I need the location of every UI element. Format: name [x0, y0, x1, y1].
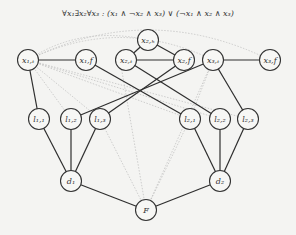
node-x2t: x₂,ₜ: [116, 50, 137, 71]
node-label: l₂,₂: [214, 115, 226, 124]
node-label: l₂,₃: [242, 115, 254, 124]
node-label: x₁,f: [79, 56, 94, 65]
node-label: F: [142, 206, 149, 215]
node-label: d₁: [67, 177, 75, 186]
edge-x2t-l22: [126, 60, 220, 119]
node-label: x₃,ₜ: [207, 56, 219, 65]
node-l23: l₂,₃: [238, 109, 259, 130]
node-label: l₁,₃: [94, 115, 106, 124]
node-x2f: x₂,f: [174, 50, 195, 71]
node-label: x₂,ₜ: [120, 56, 132, 65]
node-l12: l₁,₂: [61, 109, 82, 130]
node-l11: l₁,₁: [29, 109, 50, 130]
node-d1: d₁: [61, 171, 82, 192]
node-l21: l₂,₁: [180, 109, 201, 130]
node-label: d₂: [216, 177, 224, 186]
edge-x2f-l13: [100, 60, 184, 119]
node-x3f: x₃,f: [260, 50, 281, 71]
node-label: x₂,f: [177, 56, 192, 65]
node-label: x₃,f: [263, 56, 278, 65]
node-x3t: x₃,ₜ: [203, 50, 224, 71]
node-F: F: [136, 200, 157, 221]
node-x1f: x₁,f: [76, 50, 97, 71]
node-l22: l₂,₂: [210, 109, 231, 130]
node-label: x₂,ₕ: [141, 36, 155, 45]
node-x2h: x₂,ₕ: [138, 30, 159, 51]
node-l13: l₁,₃: [90, 109, 111, 130]
node-label: l₁,₁: [33, 115, 45, 124]
node-x1t: x₁,ₜ: [18, 50, 39, 71]
node-d2: d₂: [210, 171, 231, 192]
edge-d1-F: [71, 181, 146, 210]
graph-diagram: x₁,ₜx₁,fx₂,ₕx₂,ₜx₂,fx₃,ₜx₃,fl₁,₁l₁,₂l₁,₃…: [0, 0, 296, 235]
graph-nodes: x₁,ₜx₁,fx₂,ₕx₂,ₜx₂,fx₃,ₜx₃,fl₁,₁l₁,₂l₁,₃…: [18, 30, 281, 221]
node-label: l₁,₂: [65, 115, 77, 124]
node-label: x₁,ₜ: [22, 56, 34, 65]
node-label: l₂,₁: [184, 115, 196, 124]
